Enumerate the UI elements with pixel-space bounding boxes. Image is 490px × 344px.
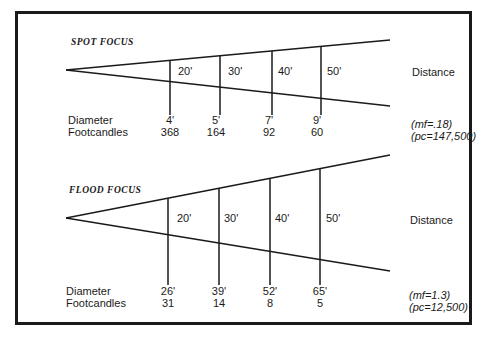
flood-diameter-40: 52' bbox=[255, 285, 285, 297]
flood-focus-title: FLOOD FOCUS bbox=[69, 184, 141, 196]
flood-distance-30: 30' bbox=[224, 212, 238, 224]
flood-cone-lower-edge bbox=[66, 218, 390, 271]
flood-pc: (pc=12,500) bbox=[409, 301, 468, 313]
flood-diameter-label: Diameter bbox=[66, 285, 111, 297]
spot-footcandles-20: 368 bbox=[155, 126, 185, 138]
flood-footcandles-label: Footcandles bbox=[66, 297, 126, 309]
spot-diameter-40: 7' bbox=[254, 114, 284, 126]
spot-distance-20: 20' bbox=[178, 65, 192, 77]
spot-mf: (mf=.18) bbox=[411, 118, 452, 130]
spot-distance-label: Distance bbox=[412, 66, 455, 78]
spot-footcandles-50: 60 bbox=[302, 126, 332, 138]
flood-distance-40: 40' bbox=[275, 212, 289, 224]
spot-distance-30: 30' bbox=[228, 65, 242, 77]
spot-pc: (pc=147,500) bbox=[411, 130, 476, 142]
flood-diameter-50: 65' bbox=[305, 285, 335, 297]
spot-footcandles-label: Footcandles bbox=[68, 126, 128, 138]
spot-distance-50: 50' bbox=[327, 65, 341, 77]
flood-distance-20: 20' bbox=[177, 212, 191, 224]
spot-diameter-50: 9' bbox=[302, 114, 332, 126]
flood-footcandles-20: 31 bbox=[153, 297, 183, 309]
flood-footcandles-50: 5 bbox=[305, 297, 335, 309]
spot-footcandles-40: 92 bbox=[254, 126, 284, 138]
flood-diameter-20: 26' bbox=[153, 285, 183, 297]
spot-focus-title: SPOT FOCUS bbox=[71, 36, 134, 48]
spot-distance-40: 40' bbox=[278, 65, 292, 77]
spot-diameter-30: 5' bbox=[201, 114, 231, 126]
flood-footcandles-30: 14 bbox=[204, 297, 234, 309]
flood-diameter-30: 39' bbox=[204, 285, 234, 297]
spot-diameter-label: Diameter bbox=[68, 114, 113, 126]
flood-distance-50: 50' bbox=[326, 212, 340, 224]
flood-footcandles-40: 8 bbox=[255, 297, 285, 309]
spot-footcandles-30: 164 bbox=[201, 126, 231, 138]
flood-mf: (mf=1.3) bbox=[409, 289, 450, 301]
spot-diameter-20: 4' bbox=[155, 114, 185, 126]
flood-distance-label: Distance bbox=[410, 214, 453, 226]
